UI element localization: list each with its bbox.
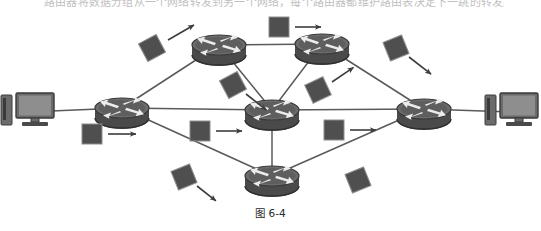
packet-square: [171, 164, 197, 190]
packet-top-right-diagonal: [383, 35, 431, 74]
computer-tower-slot: [3, 98, 6, 120]
packet-direction-arrow: [332, 67, 354, 82]
right-computer[interactable]: [485, 93, 538, 126]
packet-center-lower-right: [324, 120, 376, 140]
computer-stand: [31, 118, 39, 122]
packet-square: [305, 77, 332, 104]
computer-base: [506, 122, 532, 126]
packet-square: [190, 121, 210, 141]
left-computer[interactable]: [1, 93, 54, 126]
computer-tower-slot: [487, 98, 490, 120]
packet-upper-mid-left: [219, 71, 266, 110]
network-topology-figure: [0, 0, 541, 231]
packet-upper-mid-right: [305, 67, 354, 103]
packet-square: [82, 124, 102, 144]
packet-bottom-left: [171, 164, 216, 201]
packet-bottom-right: [345, 167, 371, 193]
packet-square: [324, 120, 344, 140]
top-left-router[interactable]: [192, 34, 246, 66]
topology-canvas: [0, 0, 541, 231]
packet-direction-arrow: [197, 186, 216, 201]
packet-top-left-diagonal: [138, 25, 194, 62]
computer-stand: [515, 118, 523, 122]
packet-square: [383, 35, 409, 61]
computer-screen: [19, 96, 51, 116]
center-router[interactable]: [245, 99, 299, 131]
right-router[interactable]: [397, 98, 451, 130]
devices-layer: [1, 33, 538, 197]
packet-direction-arrow: [168, 25, 194, 40]
computer-screen: [503, 96, 535, 116]
packet-square: [269, 17, 289, 37]
computer-base: [22, 122, 48, 126]
packet-square: [345, 167, 371, 193]
computer-tower: [1, 95, 12, 125]
figure-caption: 图 6-4: [0, 205, 541, 220]
packet-square: [219, 71, 246, 98]
packet-center-lower-left: [190, 121, 242, 141]
bottom-router[interactable]: [245, 165, 299, 197]
top-right-router[interactable]: [295, 33, 349, 65]
left-router[interactable]: [95, 97, 149, 129]
computer-tower: [485, 95, 496, 125]
packet-square: [138, 34, 165, 61]
packet-direction-arrow: [409, 57, 431, 74]
